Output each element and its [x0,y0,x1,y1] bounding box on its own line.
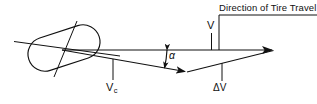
angle-arc-alpha [165,50,168,68]
label-direction-of-tire-travel: Direction of Tire Travel [219,3,316,13]
vector-delta-v-arrow [187,51,274,73]
label-vc-subscript: c [114,86,118,95]
label-slip-angle-alpha: α [169,50,175,61]
diagram-canvas [0,0,317,104]
label-velocity-v: V [207,20,214,31]
tire-slip-angle-diagram: Direction of Tire Travel V Vc ΔV α [0,0,317,104]
tire-graphic [14,20,120,77]
leader-direction-of-travel [219,15,317,50]
label-delta-velocity: ΔV [213,83,226,93]
tire-longitudinal-centerline [14,42,120,57]
label-cornering-velocity-vc: Vc [106,82,117,93]
label-vc-base: V [106,81,113,93]
